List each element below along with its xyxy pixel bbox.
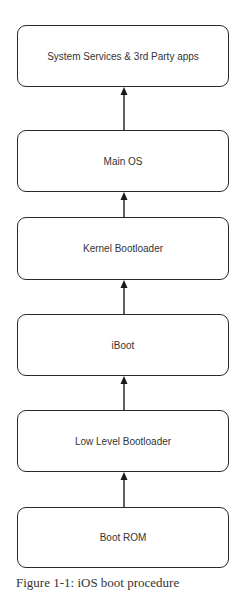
box-label: Kernel Bootloader [83,243,163,254]
box-label: System Services & 3rd Party apps [47,51,199,62]
arrow-up-icon [118,472,130,507]
arrow-up-icon [118,87,130,130]
box-main-os: Main OS [17,130,229,192]
box-kernel-bootloader: Kernel Bootloader [17,217,229,280]
arrow-up-icon [118,192,130,217]
box-label: iBoot [112,340,135,351]
box-iboot: iBoot [17,314,229,376]
box-system-services: System Services & 3rd Party apps [17,25,229,87]
box-label: Low Level Bootloader [75,436,171,447]
box-label: Boot ROM [100,532,147,543]
arrow-up-icon [118,280,130,314]
box-label: Main OS [104,156,143,167]
figure-caption: Figure 1-1: iOS boot procedure [16,576,179,589]
box-boot-rom: Boot ROM [17,507,229,568]
arrow-up-icon [118,376,130,410]
box-low-level-bootloader: Low Level Bootloader [17,410,229,472]
